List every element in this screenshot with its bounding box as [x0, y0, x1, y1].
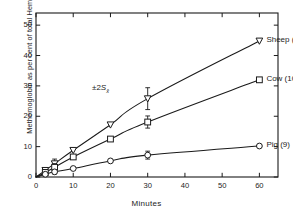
- error-note-prefix: ±2: [92, 83, 101, 92]
- x-tick-label: 30: [139, 181, 157, 190]
- x-tick-label: 0: [27, 181, 45, 190]
- x-tick-label: 20: [101, 181, 119, 190]
- series-label-sheep: Sheep (10): [266, 35, 293, 44]
- y-tick-label: 0: [16, 172, 32, 181]
- series-square: [36, 77, 262, 177]
- y-tick-label: 40: [16, 51, 32, 60]
- series-label-cow: Cow (10): [266, 74, 293, 83]
- x-tick-label: 60: [250, 181, 268, 190]
- series-label-pig: Pig (9): [266, 140, 290, 149]
- x-axis-label: Minutes: [0, 199, 293, 208]
- error-note-subscript: x̄: [106, 88, 109, 94]
- y-tick-label: 50: [16, 20, 32, 29]
- error-bar-annotation: ±2Sx̄: [92, 83, 109, 94]
- figure-root: Methemoglobin as per cent of total Hemog…: [0, 0, 293, 216]
- x-tick-label: 40: [176, 181, 194, 190]
- x-tick-label: 10: [64, 181, 82, 190]
- y-tick-label: 10: [16, 142, 32, 151]
- y-tick-label: 30: [16, 81, 32, 90]
- data-series-group: [36, 38, 263, 177]
- x-tick-label: 50: [213, 181, 231, 190]
- y-tick-label: 20: [16, 111, 32, 120]
